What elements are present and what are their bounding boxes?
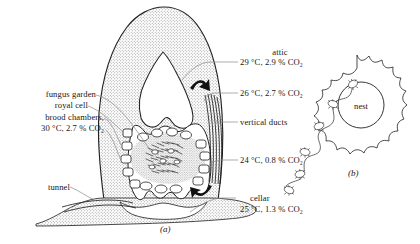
panel-b-identifier: (b) bbox=[348, 168, 359, 178]
panel-a-identifier: (a) bbox=[160, 224, 171, 234]
label-tunnel: tunnel bbox=[10, 182, 70, 192]
nest-plan-view: nest bbox=[283, 55, 407, 196]
label-upper-mound-conditions: 26 °C, 2.7 % CO₂ bbox=[240, 88, 303, 98]
label-royal-cell: royal cell bbox=[10, 100, 88, 110]
royal-cell-chamber bbox=[123, 129, 132, 137]
label-attic-conditions: 29 °C, 2.9 % CO₂ bbox=[240, 57, 303, 67]
label-cellar-conditions: 25 °C, 1.3 % CO₂ bbox=[240, 204, 303, 214]
ant-figure bbox=[283, 185, 295, 196]
label-brood-chambers-conditions: 30 °C, 2.7 % CO₂ bbox=[6, 123, 104, 133]
leader-tunnel bbox=[70, 187, 96, 201]
ant-figure bbox=[313, 121, 325, 132]
label-lower-mound-conditions: 24 °C, 0.8 % CO₂ bbox=[240, 155, 303, 165]
ant-figure bbox=[327, 99, 339, 109]
termite-mound-figure: nest bbox=[0, 0, 420, 244]
label-fungus-garden: fungus garden bbox=[10, 89, 96, 99]
label-vertical-ducts: vertical ducts bbox=[240, 117, 287, 127]
ant-figure bbox=[294, 169, 305, 179]
nest-label: nest bbox=[354, 101, 368, 111]
label-attic: attic bbox=[242, 47, 318, 57]
label-cellar: cellar bbox=[250, 193, 270, 203]
label-brood-chambers: brood chambers, bbox=[6, 112, 104, 122]
